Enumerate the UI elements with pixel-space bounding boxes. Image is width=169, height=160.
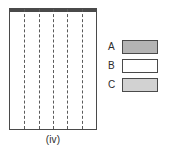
dashed-line-2 — [39, 9, 40, 129]
dashed-line-5 — [82, 9, 83, 129]
grid-row-3 — [10, 11, 96, 12]
figure-caption: (iv) — [9, 134, 97, 145]
dashed-line-1 — [24, 9, 25, 129]
legend-label-b: B — [108, 61, 122, 71]
figure-root: (iv) ABC — [0, 0, 169, 160]
grid-diagram — [9, 8, 97, 130]
legend-item-a: A — [108, 37, 168, 56]
legend-swatch-c — [122, 78, 158, 92]
dashed-line-3 — [53, 9, 54, 129]
legend-swatch-a — [122, 40, 158, 54]
legend-label-c: C — [108, 80, 122, 90]
dashed-line-4 — [67, 9, 68, 129]
dashed-column-lines — [10, 9, 96, 129]
legend-item-c: C — [108, 75, 168, 94]
legend-item-b: B — [108, 56, 168, 75]
legend-label-a: A — [108, 42, 122, 52]
legend: ABC — [108, 37, 168, 94]
legend-swatch-b — [122, 59, 158, 73]
grid-rows-container — [10, 9, 96, 12]
